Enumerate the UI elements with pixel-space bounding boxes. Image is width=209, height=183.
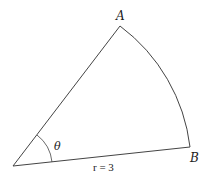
sector-arc [120, 26, 190, 147]
angle-arc [37, 135, 52, 162]
point-b-label: B [189, 151, 199, 165]
radius-label: r = 3 [93, 161, 114, 173]
angle-theta-label: θ [54, 140, 61, 153]
sector-diagram: A B θ r = 3 [0, 0, 209, 183]
point-a-label: A [115, 9, 125, 23]
radius-line-oa [13, 26, 120, 166]
